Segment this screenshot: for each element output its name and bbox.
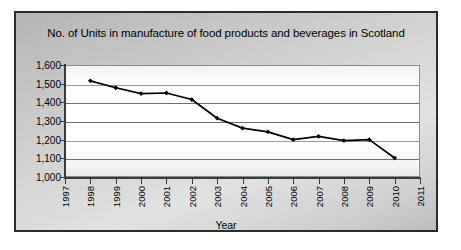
data-point-marker: [240, 126, 245, 131]
data-point-marker: [265, 129, 270, 134]
data-point-marker: [88, 78, 93, 83]
data-point-marker: [316, 134, 321, 139]
data-series-line: [16, 13, 440, 234]
data-point-marker: [291, 137, 296, 142]
x-axis-title: Year: [16, 219, 436, 231]
data-point-marker: [164, 91, 169, 96]
series-line: [90, 81, 394, 158]
data-point-marker: [139, 91, 144, 96]
data-point-marker: [342, 138, 347, 143]
data-point-marker: [113, 85, 118, 90]
chart-figure: No. of Units in manufacture of food prod…: [14, 11, 438, 232]
